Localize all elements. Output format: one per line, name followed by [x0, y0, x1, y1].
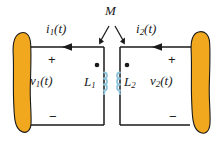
label-inductor-left: L1: [84, 75, 96, 90]
circuit-schematic-canvas: [0, 0, 219, 143]
label-inductor-right: L2: [124, 75, 136, 90]
polarity-minus-left: −: [49, 110, 57, 123]
label-current-left: i1(t): [46, 22, 66, 37]
label-current-right: i2(t): [136, 22, 156, 37]
current-arrow-left: [62, 43, 72, 51]
mutual-coupling-arrows: [100, 26, 124, 42]
polarity-minus-right: −: [169, 110, 177, 123]
label-mutual-inductance: M: [105, 4, 116, 17]
dot-convention-marker-left: [95, 63, 100, 68]
current-arrow-right: [152, 43, 162, 51]
label-voltage-right: v2(t): [150, 74, 172, 89]
inductor-coil-right: [117, 71, 120, 95]
polarity-plus-left: +: [48, 53, 56, 66]
circuit-figure: i1(t) i2(t) M v1(t) v2(t) L1 L2 + − + −: [0, 0, 219, 143]
label-voltage-left: v1(t): [30, 74, 52, 89]
dot-convention-marker-right: [125, 63, 130, 68]
inductor-coil-left: [104, 71, 107, 95]
polarity-plus-right: +: [168, 53, 176, 66]
left-source-element: [13, 33, 31, 133]
right-source-element: [191, 32, 210, 133]
